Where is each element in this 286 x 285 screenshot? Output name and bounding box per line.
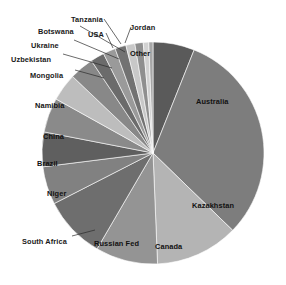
pie-slice-label: Kazakhstan — [192, 202, 234, 210]
pie-slice-label: Australia — [196, 98, 229, 106]
pie-slice-label: Jordan — [130, 24, 155, 32]
pie-slice-label: Brazil — [37, 160, 58, 168]
pie-slice-group — [42, 42, 264, 264]
pie-slice-label: Canada — [155, 243, 182, 251]
pie-slice-label: Ukraine — [31, 42, 59, 50]
pie-slice-label: Namibia — [35, 102, 64, 110]
leader-line — [106, 33, 113, 48]
pie-slice-label: Botswana — [38, 28, 74, 36]
pie-slice-label: Tanzania — [71, 16, 103, 24]
pie-slice-label: South Africa — [22, 238, 67, 246]
pie-slice-label: Russian Fed — [94, 240, 139, 248]
leader-line — [104, 19, 121, 44]
pie-chart: OtherAustraliaKazakhstanCanadaRussian Fe… — [0, 0, 286, 285]
pie-slice-label: Uzbekistan — [11, 56, 51, 64]
pie-slice-label: USA — [88, 31, 104, 39]
pie-slice-label: Other — [130, 50, 150, 58]
pie-slice-label: Mongolia — [30, 72, 63, 80]
pie-slice-label: China — [43, 133, 64, 141]
pie-slice-label: Niger — [47, 190, 66, 198]
